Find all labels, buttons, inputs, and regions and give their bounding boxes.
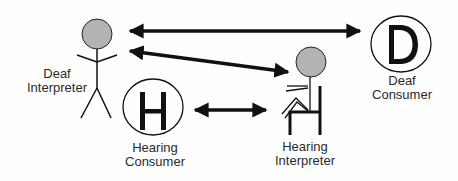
deaf-interpreter-label-line-1: Deaf	[22, 67, 92, 81]
deaf-consumer-symbol	[371, 16, 431, 72]
hearing-consumer-symbol	[123, 79, 183, 135]
hearing-interpreter-head	[296, 47, 326, 77]
hearing-consumer-label-line-2: Consumer	[115, 155, 195, 169]
hearing-interpreter-figure	[282, 47, 326, 135]
diagram-canvas: Deaf Interpreter Hearing Consumer Hearin…	[0, 0, 458, 181]
d-letter	[389, 25, 418, 64]
deaf-interpreter-label: Deaf Interpreter	[22, 67, 92, 95]
deaf-interpreter-right-arm	[97, 55, 117, 62]
hearing-interpreter-label-line-2: Interpreter	[265, 154, 345, 168]
deaf-interpreter-left-arm	[77, 55, 97, 62]
deaf-consumer-label-line-1: Deaf	[362, 74, 442, 88]
deaf-interpreter-head	[82, 19, 112, 49]
hearing-consumer-ellipse	[123, 79, 183, 135]
deaf-consumer-label: Deaf Consumer	[362, 74, 442, 102]
hearing-interpreter-label: Hearing Interpreter	[265, 140, 345, 168]
hearing-interpreter-leg-back	[285, 102, 308, 118]
hearing-consumer-label: Hearing Consumer	[115, 141, 195, 169]
h-letter-crossbar	[140, 109, 166, 114]
deaf-interpreter-right-leg	[97, 88, 111, 118]
deaf-consumer-label-line-2: Consumer	[362, 88, 442, 102]
hearing-consumer-label-line-1: Hearing	[115, 141, 195, 155]
hearing-interpreter-label-line-1: Hearing	[265, 140, 345, 154]
hearing-interpreter-arm-lower	[286, 88, 308, 91]
deaf-interpreter-label-line-2: Interpreter	[22, 81, 92, 95]
arrow-deaf-interpreter-to-hearing-interpreter	[130, 51, 288, 72]
